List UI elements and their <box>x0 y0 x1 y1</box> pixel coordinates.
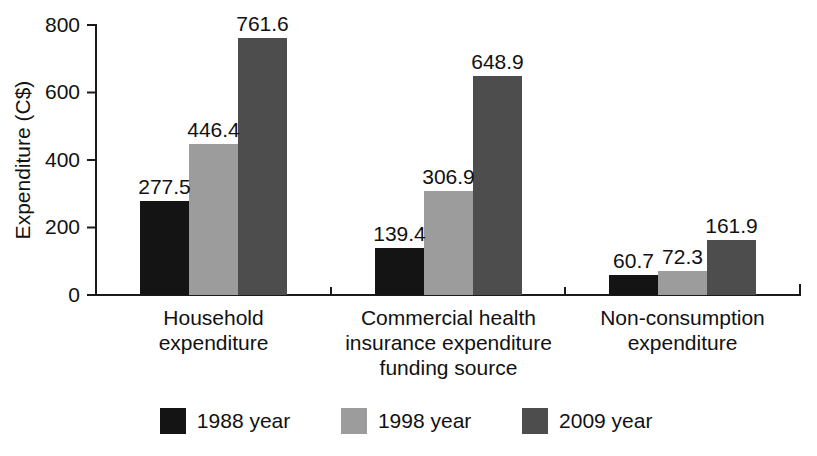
legend-item: 1988 year <box>160 408 290 434</box>
bar-value-label: 761.6 <box>236 12 289 35</box>
bar-value-label: 648.9 <box>471 50 524 73</box>
bar <box>375 248 424 295</box>
legend-item: 2009 year <box>522 408 652 434</box>
legend-item-label: 2009 year <box>559 409 652 432</box>
y-axis-ticks: 0200400600800 <box>45 13 96 306</box>
x-category-label: Non-consumption <box>600 306 765 329</box>
bar <box>707 240 756 295</box>
chart-legend: 1988 year1998 year2009 year <box>160 408 653 434</box>
bar <box>424 191 473 295</box>
legend-color-swatch <box>160 408 186 434</box>
bar-value-label: 306.9 <box>422 165 475 188</box>
bar-value-label: 277.5 <box>138 175 191 198</box>
bar <box>189 144 238 295</box>
y-tick-label: 0 <box>68 283 80 306</box>
bar <box>140 201 189 295</box>
bar <box>238 38 287 295</box>
x-category-label: expenditure <box>628 331 738 354</box>
bar <box>658 271 707 295</box>
legend-item-label: 1988 year <box>197 409 290 432</box>
x-category-label: insurance expenditure <box>345 331 552 354</box>
bar-chart: Expenditure (C$) 0200400600800 277.5446.… <box>0 0 817 456</box>
legend-item: 1998 year <box>341 408 471 434</box>
y-axis-group: Expenditure (C$) 0200400600800 <box>11 13 96 306</box>
y-tick-label: 200 <box>45 215 80 238</box>
legend-item-label: 1998 year <box>378 409 471 432</box>
bar <box>473 76 522 295</box>
y-tick-label: 400 <box>45 148 80 171</box>
bar-value-label: 161.9 <box>705 214 758 237</box>
x-category-label: Commercial health <box>361 306 536 329</box>
bar-value-label: 72.3 <box>662 245 703 268</box>
y-axis-title: Expenditure (C$) <box>11 81 34 240</box>
legend-color-swatch <box>341 408 367 434</box>
y-tick-label: 600 <box>45 80 80 103</box>
bar-value-label: 446.4 <box>187 118 240 141</box>
legend-color-swatch <box>522 408 548 434</box>
x-category-label: funding source <box>380 356 518 379</box>
category-labels-layer: HouseholdexpenditureCommercial healthins… <box>159 306 765 379</box>
bar-value-label: 60.7 <box>613 249 654 272</box>
x-category-label: Household <box>163 306 263 329</box>
bar-value-label: 139.4 <box>373 222 426 245</box>
bar <box>609 275 658 295</box>
y-tick-label: 800 <box>45 13 80 36</box>
x-category-label: expenditure <box>159 331 269 354</box>
chart-container: Expenditure (C$) 0200400600800 277.5446.… <box>0 0 817 456</box>
